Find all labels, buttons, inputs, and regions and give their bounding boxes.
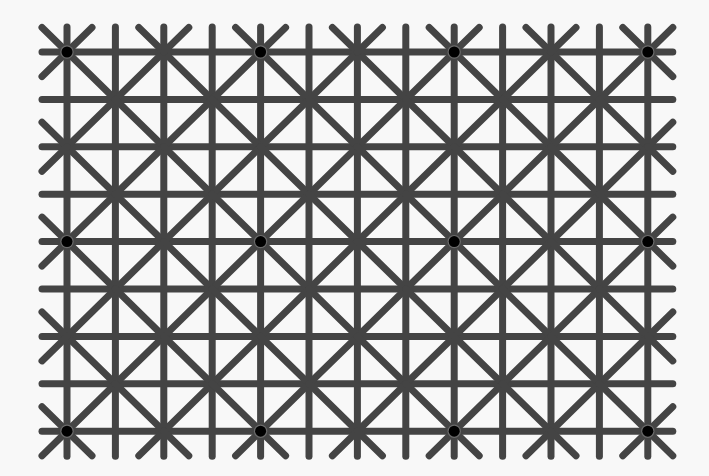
black-dot	[449, 236, 460, 247]
black-dot	[255, 236, 266, 247]
black-dot	[62, 426, 73, 437]
black-dot	[642, 236, 653, 247]
grid-illusion-figure	[0, 0, 709, 476]
black-dot	[62, 47, 73, 58]
black-dot	[255, 426, 266, 437]
black-dot	[255, 47, 266, 58]
black-dot	[642, 47, 653, 58]
black-dot	[62, 236, 73, 247]
black-dot	[642, 426, 653, 437]
black-dot	[449, 47, 460, 58]
black-dot	[449, 426, 460, 437]
